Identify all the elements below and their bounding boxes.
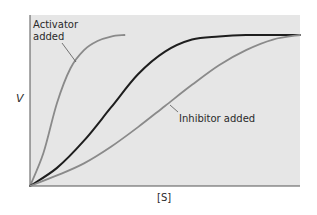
activator-annotation-line-1: Activator	[33, 19, 79, 30]
inhibitor-annotation: Inhibitor added	[179, 113, 255, 124]
plot-background	[30, 15, 300, 186]
activator-annotation-line-2: added	[33, 31, 64, 42]
y-axis-label: V	[16, 92, 25, 105]
chart: V [S] Activator added Inhibitor added	[0, 0, 317, 215]
x-axis-label: [S]	[157, 192, 171, 203]
